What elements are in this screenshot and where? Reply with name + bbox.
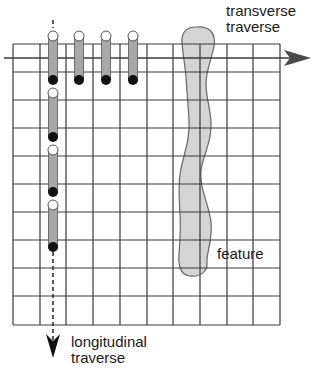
label-line: traverse [226, 19, 296, 35]
probe-end-marker [74, 75, 84, 85]
probe-body [49, 93, 58, 137]
probe-end-marker [128, 75, 138, 85]
probe-body [49, 205, 58, 247]
probe-start-marker [74, 31, 84, 41]
longitudinal-probe [48, 88, 58, 142]
probe-body [75, 36, 84, 80]
label-line: transverse [226, 3, 296, 19]
probe-start-marker [101, 31, 111, 41]
probe-start-marker [48, 200, 58, 210]
probe-start-marker [48, 88, 58, 98]
probe-body [49, 36, 58, 80]
probe-end-marker [101, 75, 111, 85]
feature-label: feature [217, 246, 264, 262]
longitudinal-probe [48, 200, 58, 252]
transverse-probe [128, 31, 138, 85]
longitudinal-probe [48, 145, 58, 197]
feature-shape [179, 27, 215, 276]
probe-body [102, 36, 111, 80]
transverse-traverse-label: transverse traverse [226, 3, 296, 35]
transverse-probe [101, 31, 111, 85]
longitudinal-traverse-label: longitudinal traverse [71, 334, 147, 366]
probe-body [129, 36, 138, 80]
transverse-probe [74, 31, 84, 85]
survey-grid-diagram [0, 0, 321, 368]
probe-start-marker [128, 31, 138, 41]
probe-end-marker [48, 132, 58, 142]
probe-end-marker [48, 242, 58, 252]
probe-end-marker [48, 187, 58, 197]
label-line: traverse [71, 350, 147, 366]
probe-body [49, 150, 58, 192]
label-line: feature [217, 246, 264, 262]
label-line: longitudinal [71, 334, 147, 350]
probe-start-marker [48, 145, 58, 155]
probe-end-marker [48, 75, 58, 85]
transverse-probe [48, 31, 58, 85]
probe-start-marker [48, 31, 58, 41]
